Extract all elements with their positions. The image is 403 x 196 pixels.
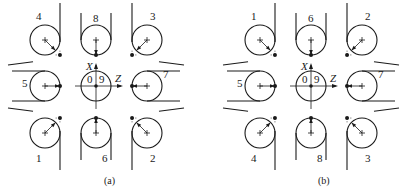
panel-caption: (a)	[104, 175, 115, 187]
x-axis-label: X	[300, 60, 309, 72]
z-arrow-icon	[332, 84, 338, 88]
tool-tip-dot	[58, 84, 62, 88]
tool-tip-dot	[130, 53, 134, 57]
position-label: 7	[378, 68, 384, 80]
tool-position-4: 4	[8, 3, 62, 65]
tool-position-8: 8	[81, 12, 111, 57]
tool-position-3: 3	[130, 3, 184, 65]
panel-a: 4835XZ097162(a)	[8, 3, 184, 187]
workpiece-slope	[8, 108, 33, 111]
tool-position-4: 4	[223, 108, 277, 170]
tool-tip-dot	[58, 116, 62, 120]
panel-caption: (b)	[318, 175, 330, 187]
workpiece-slope	[223, 108, 248, 111]
workpiece-slope	[374, 62, 399, 65]
tool-position-5: 5	[12, 71, 62, 101]
label-0: 0	[302, 73, 308, 85]
position-label: 8	[317, 152, 323, 164]
origin-cell: XZ09	[75, 60, 123, 109]
tool-position-7: 7	[345, 68, 395, 101]
tool-tip-dot	[273, 84, 277, 88]
tool-nose-orientation-diagram: 4835XZ097162(a)1625XZ097483(b)	[0, 0, 403, 196]
x-arrow-icon	[309, 63, 313, 69]
workpiece-slope	[374, 108, 399, 111]
x-axis-label: X	[85, 60, 94, 72]
tool-tip-dot	[273, 53, 277, 57]
x-arrow-icon	[94, 63, 98, 69]
position-label: 4	[251, 152, 257, 164]
position-label: 4	[36, 10, 42, 22]
position-label: 2	[365, 10, 371, 22]
tool-tip-dot	[309, 53, 313, 57]
label-9: 9	[99, 73, 105, 85]
position-label: 1	[36, 152, 42, 164]
tool-tip-dot	[345, 84, 349, 88]
origin-dot	[309, 84, 313, 88]
tool-position-2: 2	[345, 3, 399, 65]
tool-tip-dot	[309, 116, 313, 120]
z-axis-label: Z	[330, 72, 337, 84]
panel-b: 1625XZ097483(b)	[223, 3, 399, 187]
origin-cell: XZ09	[290, 60, 338, 109]
tool-tip-dot	[130, 84, 134, 88]
tool-position-3: 3	[345, 108, 399, 170]
workpiece-slope	[8, 62, 33, 65]
tool-position-8: 8	[296, 116, 326, 164]
label-9: 9	[314, 73, 320, 85]
workpiece-slope	[223, 62, 248, 65]
position-label: 5	[237, 77, 243, 89]
tool-position-6: 6	[296, 12, 326, 57]
position-label: 1	[251, 10, 257, 22]
origin-dot	[94, 84, 98, 88]
z-arrow-icon	[117, 84, 123, 88]
z-axis-label: Z	[115, 72, 122, 84]
tool-position-6: 6	[81, 116, 111, 164]
tool-tip-dot	[345, 53, 349, 57]
tool-position-1: 1	[8, 108, 62, 170]
tool-tip-dot	[94, 116, 98, 120]
diagram-panels: 4835XZ097162(a)1625XZ097483(b)	[8, 3, 399, 187]
tool-tip-dot	[130, 116, 134, 120]
position-label: 5	[22, 77, 28, 89]
position-label: 3	[365, 152, 371, 164]
tool-position-1: 1	[223, 3, 277, 65]
tool-tip-dot	[58, 53, 62, 57]
position-label: 2	[150, 152, 156, 164]
tool-tip-dot	[94, 53, 98, 57]
position-label: 8	[93, 12, 99, 24]
label-0: 0	[87, 73, 93, 85]
tool-position-7: 7	[130, 68, 180, 101]
position-label: 6	[102, 152, 108, 164]
tool-position-5: 5	[227, 71, 277, 101]
tool-tip-dot	[345, 116, 349, 120]
tool-tip-dot	[273, 116, 277, 120]
position-label: 6	[308, 12, 314, 24]
workpiece-slope	[159, 108, 184, 111]
position-label: 3	[150, 10, 156, 22]
workpiece-slope	[159, 62, 184, 65]
position-label: 7	[163, 68, 169, 80]
tool-position-2: 2	[130, 108, 184, 170]
